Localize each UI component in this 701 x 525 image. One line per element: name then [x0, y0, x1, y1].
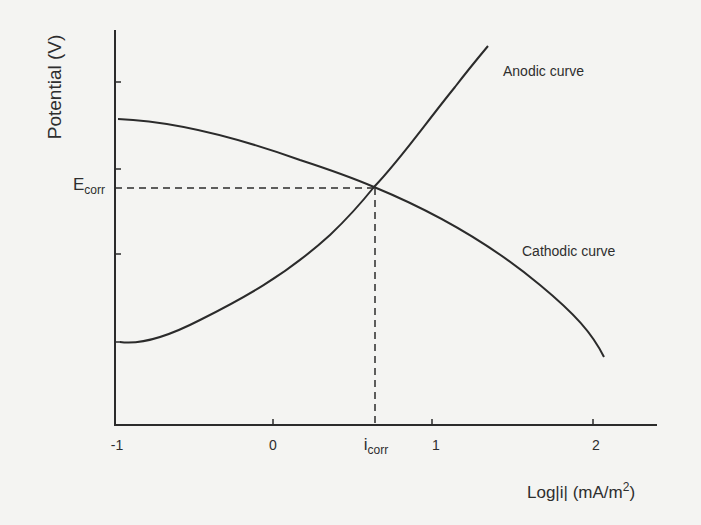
- x-tick-label-neg1: -1: [111, 437, 123, 453]
- x-axis-label-base: Log|i| (mA/m: [527, 483, 623, 502]
- cathodic-curve-label: Cathodic curve: [522, 243, 615, 259]
- ecorr-main: E: [73, 175, 84, 194]
- x-axis-label: Log|i| (mA/m2): [527, 480, 635, 503]
- ecorr-sub: corr: [84, 183, 105, 197]
- x-tick-label-0: 0: [269, 437, 277, 453]
- anodic-curve-label: Anodic curve: [503, 63, 584, 79]
- x-axis-label-tail: ): [629, 483, 635, 502]
- icorr-sub: corr: [368, 443, 389, 457]
- ecorr-label: Ecorr: [73, 175, 105, 197]
- cathodic-curve: [118, 119, 604, 357]
- y-axis-label: Potential (V): [44, 35, 66, 140]
- anodic-curve: [120, 46, 488, 343]
- icorr-label: icorr: [364, 435, 388, 457]
- x-tick-label-1: 1: [432, 437, 440, 453]
- x-tick-label-2: 2: [592, 437, 600, 453]
- polarization-chart: Potential (V) Ecorr -1 0 1 2 icorr Log|i…: [0, 0, 701, 525]
